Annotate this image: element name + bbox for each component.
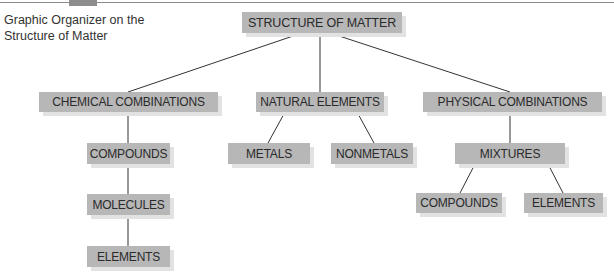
edge-natural-metals: [268, 112, 285, 143]
edge-mixtures-compounds: [460, 164, 475, 193]
edge-root-physical: [330, 33, 510, 92]
node-chemical-elements: ELEMENTS: [87, 246, 170, 267]
node-physical-combinations: PHYSICAL COMBINATIONS: [423, 92, 602, 112]
node-chemical-compounds: COMPOUNDS: [87, 143, 170, 164]
node-metals: METALS: [228, 143, 310, 164]
node-structure-of-matter: STRUCTURE OF MATTER: [242, 12, 402, 33]
edge-root-chemical: [128, 33, 302, 92]
edge-natural-nonmetals: [357, 112, 374, 143]
node-molecules: MOLECULES: [87, 194, 170, 215]
node-mixtures: MIXTURES: [455, 143, 565, 164]
node-nonmetals: NONMETALS: [331, 143, 413, 164]
node-mixture-elements: ELEMENTS: [524, 193, 603, 213]
connector-lines: [0, 0, 614, 276]
node-natural-elements: NATURAL ELEMENTS: [256, 92, 384, 112]
edge-mixtures-elements: [548, 164, 563, 193]
node-mixture-compounds: COMPOUNDS: [416, 193, 502, 213]
node-chemical-combinations: CHEMICAL COMBINATIONS: [39, 92, 218, 112]
